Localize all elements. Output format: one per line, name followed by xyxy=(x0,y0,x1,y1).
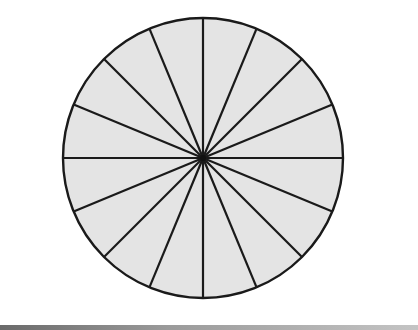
bottom-rule xyxy=(0,325,418,330)
divided-circle-diagram xyxy=(0,0,418,330)
center-point xyxy=(200,155,206,161)
